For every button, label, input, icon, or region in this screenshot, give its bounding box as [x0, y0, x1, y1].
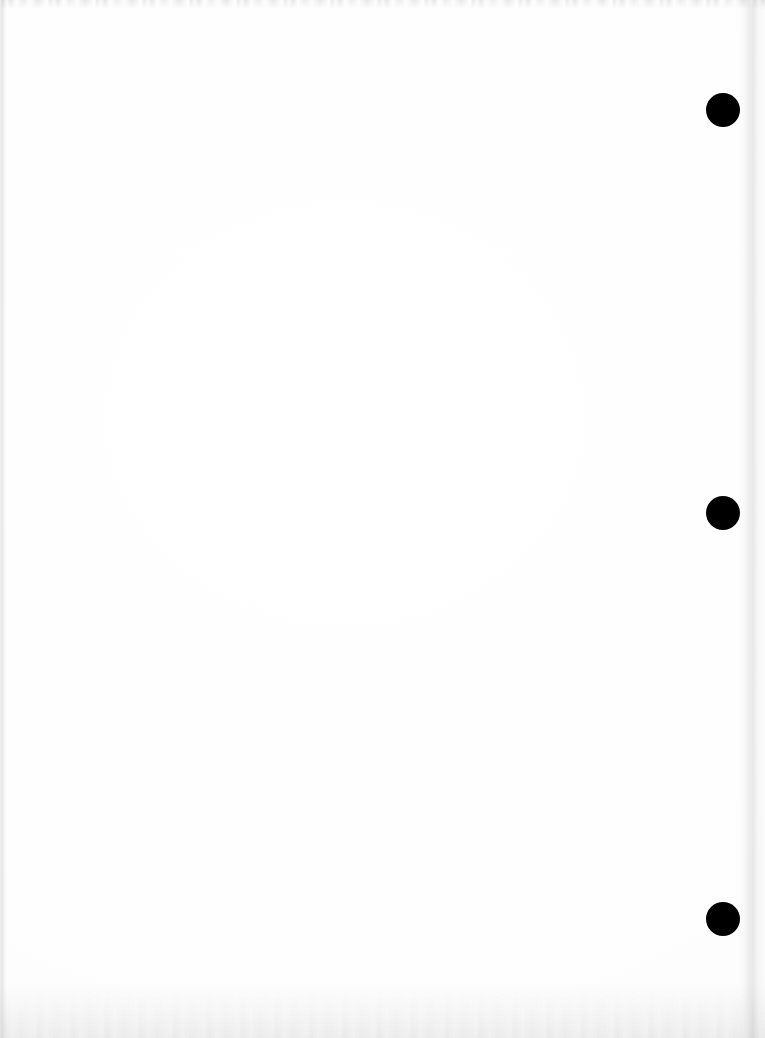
paper-surface — [0, 0, 765, 1038]
punch-mark-bottom — [706, 902, 740, 936]
page-edge-bottom-texture — [0, 990, 765, 1038]
punch-mark-top — [706, 93, 740, 127]
punch-mark-middle — [706, 496, 740, 530]
page-edge-right — [738, 0, 765, 1038]
page-edge-left — [0, 0, 7, 1038]
scan-top-artifact — [0, 0, 765, 9]
scanned-page — [0, 0, 765, 1038]
